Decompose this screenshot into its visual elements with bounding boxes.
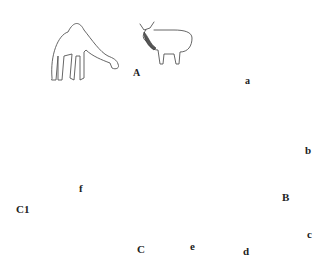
cow-illustration [140, 22, 192, 64]
diagram-canvas [0, 0, 322, 274]
label-d: d [243, 246, 249, 257]
label-A: A [133, 68, 140, 78]
label-a: a [245, 76, 250, 86]
label-b: b [305, 145, 311, 156]
label-B: B [282, 192, 289, 203]
label-e: e [190, 241, 195, 252]
label-f: f [79, 183, 83, 194]
label-C: C [137, 244, 145, 255]
life-cycle-diagram: A a b B c d e C C1 f [0, 0, 322, 274]
camel-illustration [52, 24, 119, 81]
label-c: c [307, 229, 312, 240]
label-C1: C1 [16, 204, 29, 215]
